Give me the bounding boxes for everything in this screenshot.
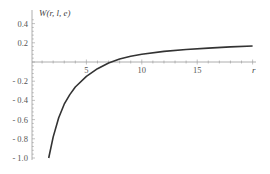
axes: [32, 10, 256, 160]
y-tick-label: - 0.8: [12, 134, 28, 144]
y-axis-label: W(r, l, e): [39, 8, 71, 18]
y-tick-label: - 0.6: [12, 115, 28, 125]
tick-labels: 510150.40.2- 0.2- 0.4- 0.6- 0.8- 1.0: [12, 19, 201, 163]
y-tick-label: 0.4: [17, 19, 28, 29]
x-axis-label: r: [252, 65, 256, 75]
line-chart: 510150.40.2- 0.2- 0.4- 0.6- 0.8- 1.0 W(r…: [0, 0, 270, 174]
y-tick-label: - 0.2: [12, 76, 28, 86]
series-line: [49, 46, 253, 158]
x-tick-label: 5: [84, 65, 88, 75]
ticks: [32, 20, 253, 158]
y-tick-label: - 0.4: [12, 95, 28, 105]
x-tick-label: 10: [138, 65, 147, 75]
x-tick-label: 15: [193, 65, 202, 75]
y-tick-label: - 1.0: [12, 153, 28, 163]
y-tick-label: 0.2: [17, 38, 28, 48]
